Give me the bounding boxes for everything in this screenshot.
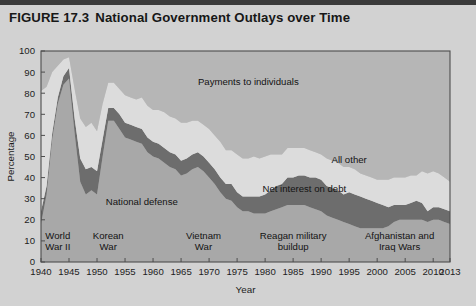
y-tick-label-70: 70 <box>24 109 35 120</box>
y-tick-label-80: 80 <box>24 88 35 99</box>
annotation-national-defense: National defense <box>106 196 178 207</box>
figure-title-bar: FIGURE 17.3National Government Outlays o… <box>9 8 469 28</box>
y-tick-label-50: 50 <box>24 151 35 162</box>
figure-number: FIGURE 17.3 <box>9 10 89 25</box>
annotation-world-war-ii: WorldWar II <box>45 230 70 253</box>
x-tick-label-1950: 1950 <box>86 266 107 277</box>
y-tick-label-100: 100 <box>19 45 35 56</box>
x-tick-label-1965: 1965 <box>170 266 191 277</box>
x-tick-label-1980: 1980 <box>254 266 275 277</box>
x-tick-label-2000: 2000 <box>366 266 387 277</box>
y-tick-label-20: 20 <box>24 214 35 225</box>
figure-top-rule <box>0 0 476 5</box>
stacked-area-chart: 0102030405060708090100 19401945195019551… <box>0 30 476 306</box>
y-tick-label-10: 10 <box>24 235 35 246</box>
x-tick-label-1960: 1960 <box>142 266 163 277</box>
x-tick-label-1990: 1990 <box>310 266 331 277</box>
y-tick-label-90: 90 <box>24 67 35 78</box>
figure-title: National Government Outlays over Time <box>95 10 350 25</box>
y-tick-label-30: 30 <box>24 193 35 204</box>
y-tick-label-60: 60 <box>24 130 35 141</box>
x-axis-label: Year <box>236 284 257 295</box>
x-tick-label-1940: 1940 <box>30 266 51 277</box>
x-tick-label-2005: 2005 <box>395 266 416 277</box>
annotation-all-other: All other <box>332 154 368 165</box>
chart-area: 0102030405060708090100 19401945195019551… <box>0 30 476 306</box>
figure-container: FIGURE 17.3National Government Outlays o… <box>0 0 476 306</box>
annotation-payments-to-individuals: Payments to individuals <box>198 76 299 87</box>
x-tick-label-1995: 1995 <box>338 266 359 277</box>
y-axis-label: Percentage <box>5 131 16 182</box>
x-tick-label-2013: 2013 <box>439 266 460 277</box>
x-tick-label-1975: 1975 <box>226 266 247 277</box>
annotation-net-interest-on-debt: Net interest on debt <box>262 183 346 194</box>
y-tick-label-40: 40 <box>24 172 35 183</box>
x-tick-label-1985: 1985 <box>282 266 303 277</box>
x-tick-label-1970: 1970 <box>198 266 219 277</box>
x-tick-label-1955: 1955 <box>114 266 135 277</box>
x-tick-label-1945: 1945 <box>58 266 79 277</box>
